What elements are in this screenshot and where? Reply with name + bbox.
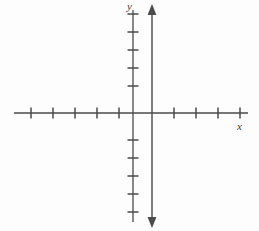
arrowhead-up-icon <box>148 4 157 15</box>
graph-canvas <box>0 0 259 231</box>
y-axis-label: y <box>127 1 132 12</box>
coordinate-plane-figure: y x <box>0 0 259 231</box>
x-axis-label: x <box>237 121 242 132</box>
arrowhead-down-icon <box>148 217 157 228</box>
plotted-vertical-line <box>148 4 157 228</box>
